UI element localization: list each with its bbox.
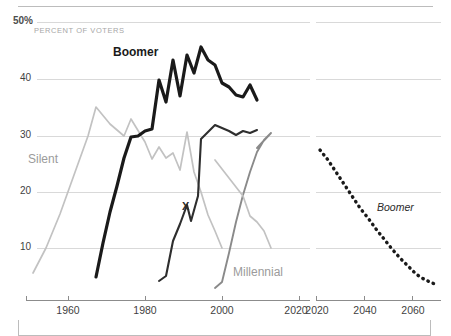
- xtick-2000: [222, 296, 223, 300]
- xtick-label-2060-r: 2060: [390, 304, 436, 316]
- projected-lines-svg: [310, 0, 451, 336]
- series-annotation-boomer: Boomer: [113, 45, 158, 59]
- xtick-label-2040-r: 2040: [342, 304, 388, 316]
- chart-panel-voters: PERCENT OF VOTERS 50% 40 30 20 10 1960 1…: [0, 0, 310, 336]
- xaxis-line-right: [316, 300, 441, 301]
- xtick-label-1960: 1960: [45, 304, 91, 316]
- xtick-label-2000: 2000: [199, 304, 245, 316]
- xtick-label-1980: 1980: [122, 304, 168, 316]
- chart-panel-adults-projected: PERCENT OF ADULTS (PROJECTED) 2020 2040 …: [310, 0, 451, 336]
- series-line-boomer-projected: [320, 150, 438, 285]
- xtick-2020: [299, 296, 300, 300]
- xtick-2020-r: [316, 296, 317, 300]
- xtick-1960: [68, 296, 69, 300]
- series-line-genx: [159, 125, 257, 281]
- xtick-1980: [145, 296, 146, 300]
- series-line-silent: [33, 107, 222, 273]
- xtick-label-2020-r: 2020: [294, 304, 340, 316]
- bottom-frame-box: [18, 320, 431, 336]
- xaxis-line-left: [26, 300, 310, 301]
- series-line-silent-tail: [215, 160, 271, 248]
- xtick-start: [26, 296, 27, 300]
- series-annotation-genx: X: [182, 200, 189, 212]
- series-annotation-millennial: Millennial: [233, 265, 283, 279]
- xtick-2060-r: [412, 296, 413, 300]
- series-annotation-boomer-projected: Boomer: [377, 201, 414, 213]
- series-annotation-silent: Silent: [28, 152, 58, 166]
- xtick-2040-r: [364, 296, 365, 300]
